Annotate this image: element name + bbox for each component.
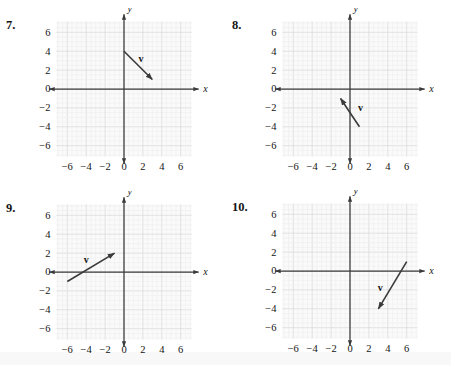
y-tick-label: 0 xyxy=(271,265,276,276)
y-tick-label: −6 xyxy=(265,322,276,333)
x-tick-label: 6 xyxy=(404,343,409,354)
x-tick-label: −6 xyxy=(288,343,299,354)
x-tick-label: 4 xyxy=(385,343,391,354)
x-tick-label: 0 xyxy=(347,161,352,172)
x-tick-label: 0 xyxy=(347,343,352,354)
vector-label: v xyxy=(358,102,363,113)
y-tick-label: 4 xyxy=(45,46,51,57)
y-tick-label: 2 xyxy=(45,65,50,76)
x-tick-label: −4 xyxy=(81,161,93,172)
problem-number-10: 10. xyxy=(232,200,248,215)
x-tick-label: 6 xyxy=(178,161,183,172)
worksheet-page: 7. xy6420−2−4−6−6−4−20246v 8. xy6420−2−4… xyxy=(0,0,451,365)
x-tick-label: 4 xyxy=(159,344,165,355)
graph-7: xy6420−2−4−6−6−4−20246v xyxy=(38,8,208,176)
vector-label: v xyxy=(139,53,144,64)
y-tick-label: 6 xyxy=(271,209,276,220)
y-tick-label: −2 xyxy=(39,102,50,113)
coordinate-plane-10: xy6420−2−4−6−6−4−20246v xyxy=(264,190,434,358)
x-tick-label: 6 xyxy=(404,161,409,172)
y-tick-label: −6 xyxy=(39,140,50,151)
problem-number-7: 7. xyxy=(6,18,15,33)
graph-10: xy6420−2−4−6−6−4−20246v xyxy=(264,190,434,358)
y-tick-label: 2 xyxy=(271,65,276,76)
y-tick-label: 0 xyxy=(45,266,50,277)
y-tick-label: 6 xyxy=(45,27,50,38)
x-tick-label: 2 xyxy=(366,161,371,172)
y-axis-label: y xyxy=(353,190,359,196)
y-tick-label: 6 xyxy=(45,210,50,221)
x-tick-label: 0 xyxy=(121,161,126,172)
y-tick-label: −2 xyxy=(265,102,276,113)
x-tick-label: −2 xyxy=(326,161,337,172)
y-tick-label: −2 xyxy=(265,284,276,295)
y-tick-label: −4 xyxy=(265,303,277,314)
y-tick-label: −4 xyxy=(39,121,51,132)
y-tick-label: 6 xyxy=(271,27,276,38)
x-tick-label: 2 xyxy=(366,343,371,354)
x-tick-label: 2 xyxy=(140,344,145,355)
vector-label: v xyxy=(84,254,89,265)
x-axis-label: x xyxy=(428,83,434,94)
y-tick-label: 4 xyxy=(271,228,277,239)
vector-label: v xyxy=(378,282,383,293)
x-tick-label: 4 xyxy=(159,161,165,172)
y-tick-label: 0 xyxy=(45,83,50,94)
y-tick-label: 0 xyxy=(271,83,276,94)
y-tick-label: −4 xyxy=(265,121,277,132)
x-tick-label: −2 xyxy=(326,343,337,354)
graph-9: xy6420−2−4−6−6−4−20246v xyxy=(38,191,208,359)
y-axis-label: y xyxy=(127,191,133,197)
y-tick-label: −6 xyxy=(265,140,276,151)
problem-panel-7: 7. xy6420−2−4−6−6−4−20246v xyxy=(0,0,225,182)
y-tick-label: 2 xyxy=(271,247,276,258)
problem-panel-10: 10. xy6420−2−4−6−6−4−20246v xyxy=(226,182,451,364)
x-tick-label: −2 xyxy=(100,344,111,355)
x-tick-label: 2 xyxy=(140,161,145,172)
x-tick-label: −4 xyxy=(307,161,319,172)
x-tick-label: 0 xyxy=(121,344,126,355)
problem-panel-8: 8. xy6420−2−4−6−6−4−20246v xyxy=(226,0,451,182)
x-axis-label: x xyxy=(202,266,208,277)
y-axis-label: y xyxy=(353,8,359,14)
x-tick-label: 4 xyxy=(385,161,391,172)
coordinate-plane-7: xy6420−2−4−6−6−4−20246v xyxy=(38,8,208,176)
x-tick-label: −6 xyxy=(62,161,73,172)
coordinate-plane-9: xy6420−2−4−6−6−4−20246v xyxy=(38,191,208,359)
graph-8: xy6420−2−4−6−6−4−20246v xyxy=(264,8,434,176)
y-tick-label: 4 xyxy=(271,46,277,57)
y-tick-label: −4 xyxy=(39,304,51,315)
x-tick-label: −4 xyxy=(307,343,319,354)
problem-number-8: 8. xyxy=(232,18,241,33)
x-tick-label: −6 xyxy=(288,161,299,172)
x-axis-label: x xyxy=(428,265,434,276)
x-tick-label: −2 xyxy=(100,161,111,172)
x-tick-label: −6 xyxy=(62,344,73,355)
y-tick-label: −6 xyxy=(39,323,50,334)
coordinate-plane-8: xy6420−2−4−6−6−4−20246v xyxy=(264,8,434,176)
x-tick-label: −4 xyxy=(81,344,93,355)
problem-number-9: 9. xyxy=(6,201,15,216)
y-tick-label: 2 xyxy=(45,248,50,259)
y-axis-label: y xyxy=(127,8,133,14)
x-tick-label: 6 xyxy=(178,344,183,355)
y-tick-label: 4 xyxy=(45,229,51,240)
problem-panel-9: 9. xy6420−2−4−6−6−4−20246v xyxy=(0,183,225,365)
y-tick-label: −2 xyxy=(39,285,50,296)
x-axis-label: x xyxy=(202,83,208,94)
